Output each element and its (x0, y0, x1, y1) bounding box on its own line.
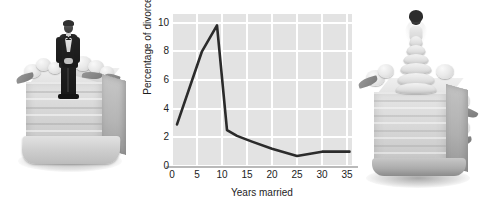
x-tick-label: 0 (169, 170, 175, 180)
y-tick-label: 6 (163, 75, 169, 85)
groom-shoes (58, 94, 79, 99)
sugar-flower-icon (436, 64, 454, 79)
bride-hair (409, 10, 423, 22)
bride-figurine (396, 36, 436, 92)
groom-right-arm (74, 37, 80, 63)
bride-cake-photo (352, 8, 482, 204)
x-tick-label: 10 (216, 170, 227, 180)
y-tick-label: 2 (163, 132, 169, 142)
x-tick-label: 35 (341, 170, 352, 180)
y-tick-label: 10 (158, 18, 169, 28)
groom-hands (64, 58, 73, 64)
x-axis-line (166, 166, 358, 168)
groom-cake-photo (8, 8, 140, 200)
groom-hair (63, 20, 74, 26)
x-tick-label: 30 (316, 170, 327, 180)
groom-left-arm (56, 37, 62, 63)
x-tick-label: 20 (266, 170, 277, 180)
figure-canvas: 0246810 05101520253035 Percentage of div… (0, 0, 484, 208)
divorce-rate-line-chart: 0246810 05101520253035 Percentage of div… (126, 0, 358, 208)
bride-gown-tier (396, 83, 437, 94)
y-tick-label: 4 (163, 104, 169, 114)
data-series-line (172, 14, 352, 166)
y-axis-title: Percentage of divorces (142, 0, 153, 109)
x-tick-label: 5 (194, 170, 200, 180)
sugar-leaf-icon (357, 75, 378, 89)
x-tick-label: 25 (291, 170, 302, 180)
groom-legs (61, 66, 76, 96)
sugar-flower-icon (378, 64, 394, 78)
cake-front-face (374, 92, 446, 166)
cake-base-board (22, 136, 121, 164)
y-tick-label: 8 (163, 46, 169, 56)
x-axis-tick-labels: 05101520253035 (126, 170, 358, 184)
cake-base-board (372, 158, 466, 176)
x-axis-title: Years married (172, 187, 352, 198)
x-tick-label: 15 (241, 170, 252, 180)
